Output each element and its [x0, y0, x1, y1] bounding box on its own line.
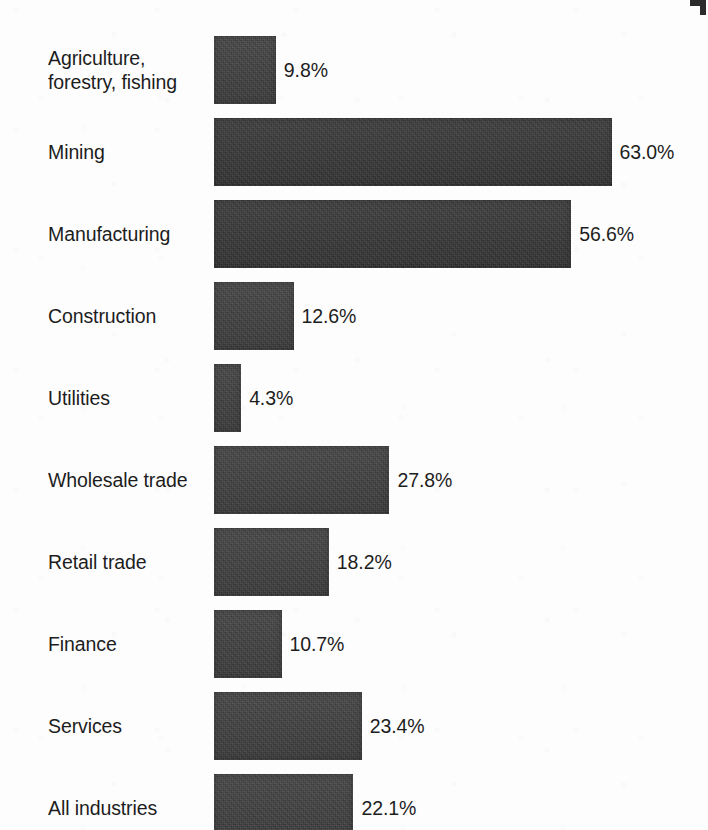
bar-category-label: Mining	[48, 140, 208, 164]
bar-category-label: Services	[48, 714, 208, 738]
bar-chart: Agriculture, forestry, fishing9.8%Mining…	[0, 0, 708, 830]
bar-track: 9.8%	[214, 36, 708, 104]
bar-value-label: 23.4%	[370, 715, 425, 737]
bar-category-label: Finance	[48, 632, 208, 656]
bar-value-label: 18.2%	[337, 551, 392, 573]
bar-track: 23.4%	[214, 692, 708, 760]
bar	[214, 364, 241, 432]
bar	[214, 528, 329, 596]
bar	[214, 692, 362, 760]
bar-track: 12.6%	[214, 282, 708, 350]
bar-track: 56.6%	[214, 200, 708, 268]
bar	[214, 200, 571, 268]
bar-value-label: 22.1%	[361, 797, 416, 819]
bar	[214, 774, 353, 830]
bar-value-label: 27.8%	[397, 469, 452, 491]
bar-value-label: 4.3%	[249, 387, 293, 409]
bar-chart-row: Wholesale trade27.8%	[0, 446, 708, 514]
bar-track: 4.3%	[214, 364, 708, 432]
bar	[214, 282, 294, 350]
chart-page: Agriculture, forestry, fishing9.8%Mining…	[0, 0, 708, 830]
bar-chart-row: Manufacturing56.6%	[0, 200, 708, 268]
bar-track: 22.1%	[214, 774, 708, 830]
bar-value-label: 63.0%	[620, 141, 675, 163]
bar-chart-row: Agriculture, forestry, fishing9.8%	[0, 36, 708, 104]
bar-category-label: Agriculture, forestry, fishing	[48, 46, 208, 94]
bar-value-label: 10.7%	[290, 633, 345, 655]
bar-track: 27.8%	[214, 446, 708, 514]
bar-chart-row: Mining63.0%	[0, 118, 708, 186]
bar-chart-row: Services23.4%	[0, 692, 708, 760]
bar-category-label: Construction	[48, 304, 208, 328]
bar-track: 18.2%	[214, 528, 708, 596]
bar-chart-row: Utilities4.3%	[0, 364, 708, 432]
bar-category-label: Retail trade	[48, 550, 208, 574]
bar-category-label: Manufacturing	[48, 222, 208, 246]
bar-chart-row: All industries22.1%	[0, 774, 708, 830]
bar-value-label: 12.6%	[302, 305, 357, 327]
bar-track: 63.0%	[214, 118, 708, 186]
bar	[214, 610, 282, 678]
bar-category-label: Wholesale trade	[48, 468, 208, 492]
bar	[214, 446, 389, 514]
bar-chart-row: Construction12.6%	[0, 282, 708, 350]
bar-chart-row: Retail trade18.2%	[0, 528, 708, 596]
bar-value-label: 9.8%	[284, 59, 328, 81]
bar	[214, 118, 612, 186]
bar-track: 10.7%	[214, 610, 708, 678]
bar-category-label: Utilities	[48, 386, 208, 410]
bar-value-label: 56.6%	[579, 223, 634, 245]
bar-category-label: All industries	[48, 796, 208, 820]
bar	[214, 36, 276, 104]
bar-chart-row: Finance10.7%	[0, 610, 708, 678]
